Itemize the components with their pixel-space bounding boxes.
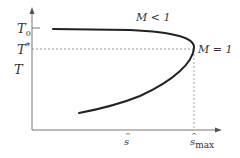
s-max-label: smax xyxy=(190,136,214,150)
fanno-curve xyxy=(53,29,194,113)
y-axis-arrow-icon xyxy=(30,7,35,14)
tstar-label: T* xyxy=(17,41,31,57)
x-axis-arrow-icon xyxy=(215,128,222,133)
t0-label: T0 xyxy=(17,21,31,38)
s-hat-label: s xyxy=(124,136,129,147)
t-s-diagram: T0 T* T M < 1 M = 1 ^ s ^ smax xyxy=(0,0,240,158)
choked-label: M = 1 xyxy=(197,43,232,56)
subsonic-label: M < 1 xyxy=(135,11,170,24)
t-label: T xyxy=(14,62,24,77)
